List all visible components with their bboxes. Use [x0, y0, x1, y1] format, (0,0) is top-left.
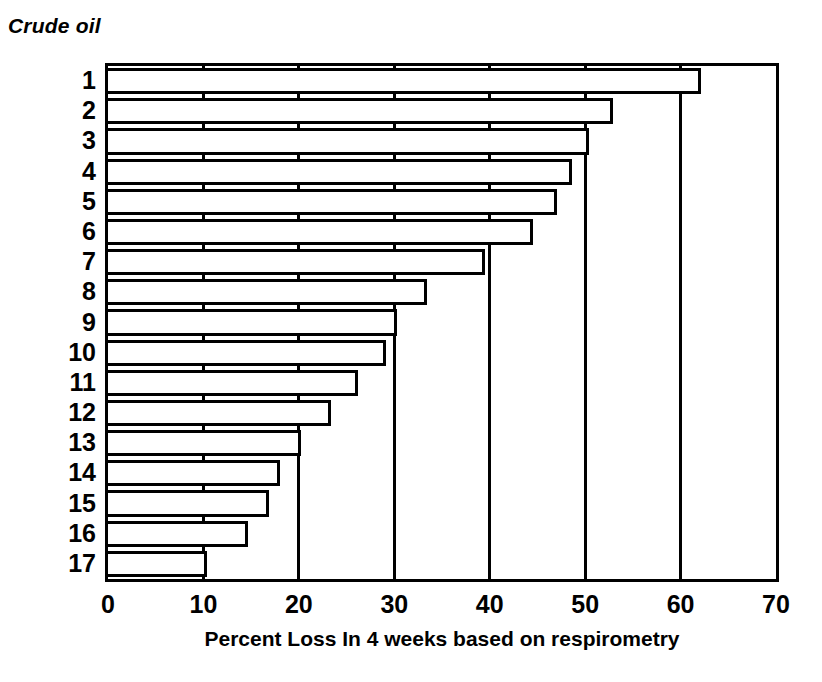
- bar-row: [108, 279, 776, 305]
- bar-row: [108, 219, 776, 245]
- y-tick-label-7: 7: [0, 249, 96, 274]
- bar-row: [108, 68, 776, 94]
- x-tick-label-60: 60: [667, 592, 695, 617]
- chart-title: Crude oil: [8, 15, 101, 36]
- x-tick-label-20: 20: [285, 592, 313, 617]
- x-axis-tick-labels: 010203040506070: [0, 592, 822, 626]
- y-tick-label-10: 10: [0, 340, 96, 365]
- bar-11: [108, 370, 358, 396]
- bar-row: [108, 98, 776, 124]
- bar-row: [108, 490, 776, 516]
- bar-row: [108, 189, 776, 215]
- bar-row: [108, 400, 776, 426]
- bar-row: [108, 430, 776, 456]
- bar-8: [108, 279, 427, 305]
- y-tick-label-8: 8: [0, 279, 96, 304]
- plot-inner: [108, 66, 776, 579]
- bar-row: [108, 159, 776, 185]
- x-tick-label-70: 70: [762, 592, 790, 617]
- bar-row: [108, 521, 776, 547]
- bar-4: [108, 159, 572, 185]
- bar-1: [108, 68, 701, 94]
- bar-row: [108, 309, 776, 335]
- y-tick-label-14: 14: [0, 460, 96, 485]
- bar-14: [108, 460, 280, 486]
- bar-2: [108, 98, 613, 124]
- x-tick-label-0: 0: [101, 592, 115, 617]
- bar-row: [108, 370, 776, 396]
- bar-row: [108, 551, 776, 577]
- bar-16: [108, 521, 248, 547]
- y-tick-label-17: 17: [0, 551, 96, 576]
- x-tick-label-40: 40: [476, 592, 504, 617]
- bar-row: [108, 128, 776, 154]
- y-tick-label-15: 15: [0, 491, 96, 516]
- bar-3: [108, 128, 589, 154]
- bar-5: [108, 189, 557, 215]
- bar-15: [108, 490, 269, 516]
- y-tick-label-4: 4: [0, 159, 96, 184]
- y-tick-label-6: 6: [0, 219, 96, 244]
- chart-figure: Crude oil 1234567891011121314151617 0102…: [0, 0, 822, 682]
- y-tick-label-9: 9: [0, 310, 96, 335]
- y-tick-label-11: 11: [0, 370, 96, 395]
- x-axis-title: Percent Loss In 4 weeks based on respiro…: [105, 628, 779, 649]
- y-tick-label-3: 3: [0, 128, 96, 153]
- y-tick-label-13: 13: [0, 430, 96, 455]
- bar-row: [108, 340, 776, 366]
- y-tick-label-1: 1: [0, 68, 96, 93]
- bar-10: [108, 340, 386, 366]
- bar-6: [108, 219, 533, 245]
- plot-area: [105, 63, 779, 582]
- y-tick-label-16: 16: [0, 521, 96, 546]
- y-tick-label-2: 2: [0, 98, 96, 123]
- bar-17: [108, 551, 207, 577]
- x-tick-label-10: 10: [190, 592, 218, 617]
- bar-13: [108, 430, 301, 456]
- bar-row: [108, 249, 776, 275]
- y-tick-label-12: 12: [0, 400, 96, 425]
- y-tick-label-5: 5: [0, 189, 96, 214]
- bar-row: [108, 460, 776, 486]
- bar-12: [108, 400, 331, 426]
- y-axis-tick-labels: 1234567891011121314151617: [0, 63, 96, 582]
- bar-7: [108, 249, 485, 275]
- x-tick-label-30: 30: [380, 592, 408, 617]
- x-tick-label-50: 50: [571, 592, 599, 617]
- bar-9: [108, 309, 397, 335]
